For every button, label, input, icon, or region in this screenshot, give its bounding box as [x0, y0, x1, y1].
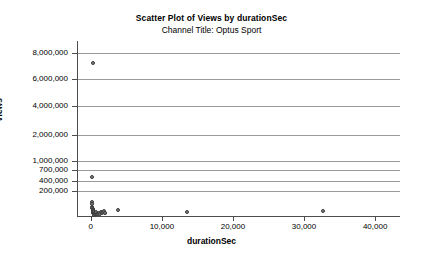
y-axis-tick-label: 400,000 [39, 176, 68, 185]
y-axis-tick-label: 8,000,000 [32, 48, 68, 57]
scatter-point [103, 211, 107, 215]
chart-subtitle: Channel Title: Optus Sport [0, 24, 423, 36]
x-axis-title: durationSec [0, 236, 423, 246]
gridline-horizontal [78, 79, 400, 80]
y-axis-tick [72, 170, 78, 171]
x-axis-tick [91, 217, 92, 221]
x-axis-tick-label: 10,000 [150, 222, 174, 232]
x-axis-tick [375, 217, 376, 221]
gridline-horizontal [78, 53, 400, 54]
scatter-point [321, 209, 325, 213]
x-axis-tick-label: 0 [89, 222, 93, 232]
gridline-horizontal [78, 191, 400, 192]
y-axis-tick-label: 700,000 [39, 165, 68, 174]
x-axis-tick [304, 217, 305, 221]
x-axis-tick [162, 217, 163, 221]
chart-title: Scatter Plot of Views by durationSec [0, 13, 423, 24]
gridline-horizontal [78, 106, 400, 107]
y-axis-tick [72, 191, 78, 192]
y-axis-tick [72, 79, 78, 80]
y-axis-tick [72, 106, 78, 107]
y-axis-tick [72, 135, 78, 136]
gridline-horizontal [78, 170, 400, 171]
gridline-horizontal [78, 135, 400, 136]
x-axis-tick [233, 217, 234, 221]
y-axis-tick-label: 200,000 [39, 186, 68, 195]
y-axis-tick-label: 4,000,000 [32, 101, 68, 110]
y-axis-title: Views [0, 98, 4, 122]
x-axis-baseline [77, 216, 400, 217]
scatter-point [91, 61, 95, 65]
y-axis-tick-label: 6,000,000 [32, 74, 68, 83]
plot-area [78, 45, 400, 216]
y-axis-tick [72, 161, 78, 162]
x-axis-tick-label: 30,000 [292, 222, 316, 232]
y-axis-tick-label: 2,000,000 [32, 130, 68, 139]
y-axis-tick [72, 181, 78, 182]
chart-title-block: Scatter Plot of Views by durationSec Cha… [0, 13, 423, 36]
y-axis-tick-label: 1,000,000 [32, 156, 68, 165]
gridline-horizontal [78, 181, 400, 182]
x-axis-tick-label: 20,000 [221, 222, 245, 232]
y-axis-tick [72, 53, 78, 54]
gridline-horizontal [78, 161, 400, 162]
scatter-chart: Scatter Plot of Views by durationSec Cha… [0, 0, 423, 259]
x-axis-tick-label: 40,000 [363, 222, 387, 232]
